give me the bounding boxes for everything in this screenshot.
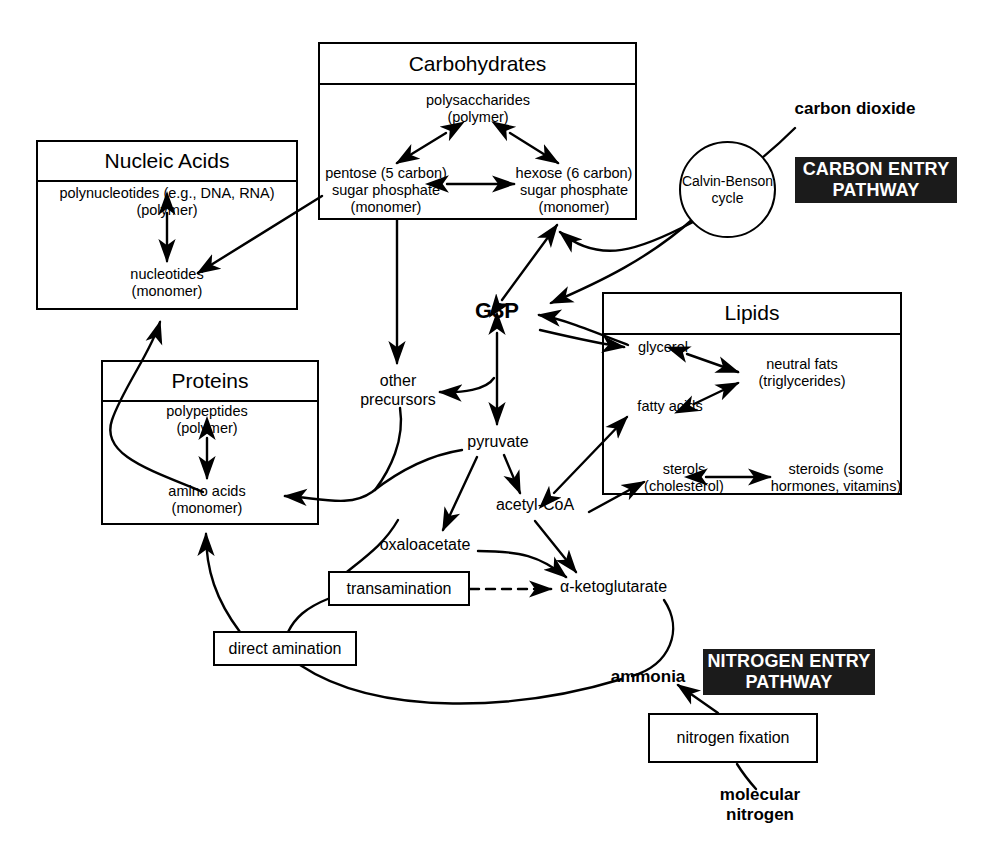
tag-carbon-entry-pathway: CARBON ENTRY PATHWAY bbox=[795, 157, 957, 203]
group-title-lipids: Lipids bbox=[604, 302, 900, 323]
group-divider-lipids bbox=[604, 333, 900, 335]
input-ammonia: ammonia bbox=[598, 668, 698, 685]
input-carbon-dioxide: carbon dioxide bbox=[770, 100, 940, 117]
node-polypeptides: polypeptides (polymer) bbox=[147, 403, 267, 437]
node-steroids: steroids (some hormones, vitamins) bbox=[762, 461, 910, 495]
arrow-pyruvate-to-acetylcoa bbox=[504, 455, 520, 493]
node-alpha-ketoglutarate: α-ketoglutarate bbox=[560, 578, 710, 595]
arrow-g3p-hexose bbox=[502, 225, 557, 300]
group-title-proteins: Proteins bbox=[103, 370, 317, 391]
process-box-transamination[interactable]: transamination bbox=[328, 571, 470, 606]
node-glycerol: glycerol bbox=[629, 339, 697, 356]
node-nucleotides: nucleotides (monomer) bbox=[110, 266, 224, 300]
arrow-acetylcoa-to-ketoglutarate bbox=[535, 521, 576, 572]
arrow-ketoglutarate-to-ammonia bbox=[632, 600, 673, 676]
node-g3p: G3P bbox=[462, 301, 532, 321]
node-pyruvate: pyruvate bbox=[452, 433, 544, 450]
arrow-pyruvate-to-oxaloacetate bbox=[443, 457, 477, 530]
node-oxaloacetate: oxaloacetate bbox=[367, 536, 483, 553]
node-pentose-sugar-phosphate: pentose (5 carbon) sugar phosphate (mono… bbox=[324, 165, 448, 216]
process-box-direct-amination[interactable]: direct amination bbox=[213, 631, 357, 666]
group-title-nucleic-acids: Nucleic Acids bbox=[38, 150, 296, 171]
arrow-g3p-to-other-precursors bbox=[440, 378, 494, 392]
tag-nitrogen-entry-pathway: NITROGEN ENTRY PATHWAY bbox=[703, 649, 875, 695]
node-polynucleotides: polynucleotides (e.g., DNA, RNA) (polyme… bbox=[40, 185, 294, 219]
group-divider-nucleic-acids bbox=[38, 180, 296, 182]
arrow-calvin-to-hexose bbox=[560, 222, 693, 251]
process-box-nitrogen-fixation[interactable]: nitrogen fixation bbox=[648, 713, 818, 763]
node-hexose-sugar-phosphate: hexose (6 carbon) sugar phosphate (monom… bbox=[512, 165, 636, 216]
arrow-calvin-to-g3p bbox=[551, 218, 694, 303]
arrow-other-precursors-to-aminoacids bbox=[375, 408, 401, 490]
arrow-directamination-to-aminoacids bbox=[206, 534, 240, 632]
node-acetyl-coa: acetyl-CoA bbox=[480, 496, 590, 513]
input-molecular-nitrogen: molecular nitrogen bbox=[690, 785, 830, 825]
node-amino-acids: amino acids (monomer) bbox=[145, 483, 269, 517]
arrow-transamination-curve-down bbox=[288, 598, 330, 632]
node-fatty-acids: fatty acids bbox=[628, 398, 712, 415]
arrow-directamination-to-ammonia bbox=[300, 665, 622, 704]
pathway-diagram-canvas: alpha-ketoglutarate --> Carbohydrates po… bbox=[0, 0, 981, 860]
group-title-carbohydrates: Carbohydrates bbox=[320, 53, 635, 74]
node-polysaccharides: polysaccharides (polymer) bbox=[398, 92, 558, 126]
arrow-oxaloacetate-to-ketoglutarate bbox=[478, 551, 566, 577]
cycle-calvin-benson[interactable]: Calvin-Benson cycle bbox=[679, 141, 776, 238]
node-sterols: sterols (cholesterol) bbox=[634, 461, 734, 495]
node-neutral-fats: neutral fats (triglycerides) bbox=[742, 356, 862, 390]
node-other-precursors: other precursors bbox=[350, 371, 446, 409]
group-divider-proteins bbox=[103, 400, 317, 402]
group-divider-carbohydrates bbox=[320, 83, 635, 85]
